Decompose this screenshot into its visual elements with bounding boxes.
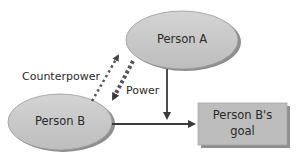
goal-label-line1: Person B's <box>198 108 287 122</box>
power-diagram: Person A Person B Person B's goal Counte… <box>0 0 306 162</box>
person-a-label: Person A <box>126 32 238 46</box>
counterpower-label: Counterpower <box>22 70 100 83</box>
goal-label-line2: goal <box>198 124 287 138</box>
power-label: Power <box>126 84 159 97</box>
person-b-label: Person B <box>8 114 112 128</box>
